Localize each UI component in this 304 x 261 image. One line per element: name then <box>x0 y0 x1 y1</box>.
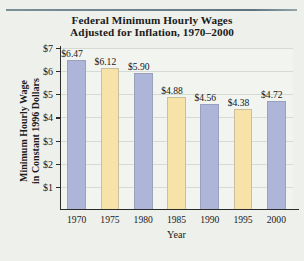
bar-value-label: $4.72 <box>261 89 283 100</box>
y-axis-tick-label: $6 <box>43 66 53 77</box>
y-axis-title-line-1: Minimum Hourly Wage <box>18 56 30 206</box>
chart-title: Federal Minimum Hourly Wages Adjusted fo… <box>0 14 304 39</box>
x-axis-tick-label: 1980 <box>134 214 153 225</box>
bar-value-label: $6.47 <box>61 48 83 59</box>
bar-column[interactable] <box>67 60 86 210</box>
x-axis-tick-label: 1985 <box>167 214 186 225</box>
bar[interactable] <box>134 73 153 210</box>
y-axis-tick-label: $7 <box>43 43 53 54</box>
bar-column[interactable] <box>234 109 253 210</box>
top-divider-rule <box>6 9 297 11</box>
y-axis-title-line-2: in Constant 1996 Dollars <box>30 56 42 206</box>
y-axis-tick-label: $1 <box>43 181 53 192</box>
chart-title-line-1: Federal Minimum Hourly Wages <box>72 14 233 26</box>
bar-value-label: $4.56 <box>194 92 216 103</box>
bar-value-label: $5.90 <box>128 61 150 72</box>
y-axis-tick-label: $2 <box>43 158 53 169</box>
x-axis-tick-label: 1970 <box>67 214 86 225</box>
y-axis-tick-label: $3 <box>43 135 53 146</box>
bar[interactable] <box>234 109 253 210</box>
x-axis-title: Year <box>60 229 293 240</box>
bar[interactable] <box>200 104 219 210</box>
bar-column[interactable] <box>134 73 153 210</box>
bar-series: $6.47$6.12$5.90$4.88$4.56$4.38$4.72 <box>60 48 293 210</box>
x-axis-line <box>60 209 299 210</box>
x-axis-tick-label: 1975 <box>100 214 119 225</box>
bar-value-label: $4.38 <box>228 97 250 108</box>
bar[interactable] <box>167 97 186 210</box>
x-axis-tick-label: 2000 <box>267 214 286 225</box>
x-axis-tick-label: 1990 <box>200 214 219 225</box>
plot-area: $1$2$3$4$5$6$7 $6.47$6.12$5.90$4.88$4.56… <box>60 48 293 210</box>
y-axis-tick-label: $5 <box>43 89 53 100</box>
bar-column[interactable] <box>200 104 219 210</box>
y-axis-title: Minimum Hourly Wage in Constant 1996 Dol… <box>18 56 41 206</box>
bar[interactable] <box>67 60 86 210</box>
y-axis-tick-label: $4 <box>43 112 53 123</box>
bar[interactable] <box>101 68 120 210</box>
bar-value-label: $4.88 <box>161 85 183 96</box>
bar[interactable] <box>267 101 286 210</box>
x-axis-tick-label: 1995 <box>233 214 252 225</box>
bar-column[interactable] <box>167 97 186 210</box>
bar-value-label: $6.12 <box>95 56 117 67</box>
bar-column[interactable] <box>101 68 120 210</box>
bar-column[interactable] <box>267 101 286 210</box>
chart-title-line-2: Adjusted for Inflation, 1970–2000 <box>0 26 304 38</box>
chart-figure: Federal Minimum Hourly Wages Adjusted fo… <box>0 0 304 261</box>
